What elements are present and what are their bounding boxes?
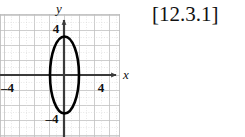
- graph-svg: –4 4 4 –4 y x: [0, 0, 140, 137]
- reference-tag: [12.3.1]: [152, 2, 219, 27]
- coordinate-graph: –4 4 4 –4 y x: [0, 0, 140, 137]
- y-tick-label-4: 4: [53, 21, 60, 36]
- y-axis-label: y: [54, 1, 62, 16]
- x-axis-label: x: [122, 67, 129, 82]
- y-tick-label-negative-4: –4: [45, 111, 60, 126]
- figure-page: –4 4 4 –4 y x [12.3.1]: [0, 0, 245, 137]
- x-tick-label-negative-4: –4: [0, 80, 15, 95]
- x-tick-label-4: 4: [98, 80, 105, 95]
